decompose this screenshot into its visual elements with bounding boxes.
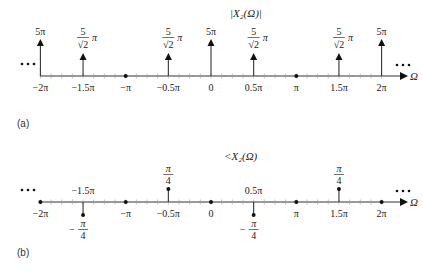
ellipsis-left-icon: [21, 189, 36, 192]
svg-text:4: 4: [166, 175, 171, 186]
impulse-value-label: 5√2π: [248, 26, 269, 50]
svg-text:π: π: [166, 163, 172, 174]
zero-sample-dot: [38, 200, 42, 204]
tick-label: π: [294, 208, 299, 219]
tick-label: 0: [209, 208, 214, 219]
tick-label: 1.5π: [330, 82, 348, 93]
svg-text:4: 4: [81, 230, 86, 241]
impulse-arrow-icon: [80, 53, 87, 60]
phase-value-label: π4: [163, 163, 173, 186]
phase-sample-dot: [81, 213, 85, 217]
svg-text:5: 5: [336, 26, 341, 37]
panel-a-title: |X₂(Ω)|: [230, 7, 262, 20]
ellipsis-right-icon: [396, 64, 411, 67]
zero-sample-dot: [124, 74, 128, 78]
phase-sample-dot: [166, 187, 170, 191]
tick-label: −2π: [33, 82, 49, 93]
panel-a-caption: (a): [17, 118, 29, 129]
svg-text:5: 5: [166, 26, 171, 37]
svg-text:4: 4: [336, 175, 341, 186]
svg-text:√2: √2: [78, 39, 89, 50]
impulse-value-label: 5√2π: [162, 26, 183, 50]
tick-label: 0.5π: [245, 185, 263, 196]
tick-label: 0.5π: [245, 82, 263, 93]
phase-value-label: π4−: [240, 218, 259, 241]
panel-b-phase: Ω−2ππ4−−1.5π−ππ4−0.5π0π4−0.5πππ41.5π2π: [21, 163, 418, 241]
svg-text:−: −: [69, 224, 75, 235]
svg-text:√2: √2: [334, 39, 345, 50]
zero-sample-dot: [209, 200, 213, 204]
ellipsis-left-icon: [21, 63, 36, 66]
svg-text:5: 5: [251, 26, 256, 37]
phase-sample-dot: [337, 187, 341, 191]
impulse-arrow-icon: [378, 39, 385, 46]
svg-text:−: −: [240, 224, 246, 235]
tick-label: 2π: [377, 208, 387, 219]
tick-label: 2π: [377, 82, 387, 93]
tick-label: 0: [209, 82, 214, 93]
zero-sample-dot: [294, 200, 298, 204]
svg-text:π: π: [263, 32, 269, 43]
svg-text:π: π: [348, 32, 354, 43]
impulse-value-label: 5π: [35, 26, 45, 37]
figure: Ω−2π5π−1.5π5√2π−π−0.5π5√2π05π0.5π5√2ππ1.…: [0, 0, 423, 272]
zero-sample-dot: [124, 200, 128, 204]
impulse-value-label: 5√2π: [333, 26, 354, 50]
tick-label: −π: [120, 208, 131, 219]
svg-text:√2: √2: [163, 39, 174, 50]
impulse-value-label: 5π: [206, 26, 216, 37]
ellipsis-right-icon: [396, 190, 411, 193]
svg-text:π: π: [177, 32, 183, 43]
phase-sample-dot: [252, 213, 256, 217]
svg-text:4: 4: [251, 230, 256, 241]
tick-label: −0.5π: [157, 208, 180, 219]
impulse-value-label: 5√2π: [77, 26, 98, 50]
svg-text:π: π: [81, 218, 87, 229]
tick-label: −1.5π: [71, 82, 94, 93]
tick-label: 1.5π: [330, 208, 348, 219]
svg-text:5: 5: [81, 26, 86, 37]
impulse-arrow-icon: [250, 53, 257, 60]
impulse-arrow-icon: [208, 39, 215, 46]
panel-b-caption: (b): [17, 247, 29, 258]
impulse-value-label: 5π: [377, 26, 387, 37]
axis-arrow-icon: [400, 72, 408, 80]
axis-label: Ω: [410, 196, 418, 208]
impulse-arrow-icon: [165, 53, 172, 60]
axis-arrow-icon: [400, 198, 408, 206]
tick-label: −1.5π: [71, 185, 94, 196]
tick-label: π: [294, 82, 299, 93]
panel-a-magnitude: Ω−2π5π−1.5π5√2π−π−0.5π5√2π05π0.5π5√2ππ1.…: [21, 26, 418, 93]
impulse-arrow-icon: [335, 53, 342, 60]
phase-value-label: π4: [334, 163, 344, 186]
tick-label: −0.5π: [157, 82, 180, 93]
svg-text:π: π: [336, 163, 342, 174]
svg-text:π: π: [92, 32, 98, 43]
tick-label: −π: [120, 82, 131, 93]
svg-text:√2: √2: [248, 39, 259, 50]
impulse-arrow-icon: [37, 39, 44, 46]
tick-label: −2π: [33, 208, 49, 219]
panel-b-title: <X₂(Ω): [224, 150, 258, 163]
axis-label: Ω: [410, 70, 418, 82]
svg-text:π: π: [251, 218, 257, 229]
zero-sample-dot: [294, 74, 298, 78]
zero-sample-dot: [380, 200, 384, 204]
phase-value-label: π4−: [69, 218, 88, 241]
